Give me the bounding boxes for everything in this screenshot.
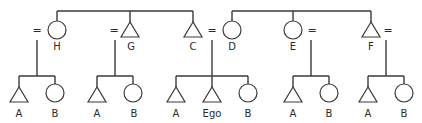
male-triangle-icon [121,22,139,37]
sibling-bar-right [232,11,371,22]
child-B: B [395,84,413,119]
female-circle-icon [320,84,338,102]
child-Ego: Ego [203,87,222,119]
person-C: C [184,22,202,52]
person-label: B [401,108,408,119]
person-label: A [365,108,372,119]
family-F-children: A B [359,40,413,119]
male-triangle-icon [362,22,380,37]
person-label: H [53,41,61,52]
person-G: G [121,22,139,52]
child-A: A [10,87,28,119]
child-A: A [284,87,302,119]
person-H: H [48,21,66,52]
kinship-diagram: H G C D E F = = = = = A B [0,0,422,123]
female-circle-icon [48,21,66,39]
person-E: E [284,21,302,52]
person-label: A [16,108,23,119]
child-A: A [167,87,185,119]
person-label: B [131,108,138,119]
male-triangle-icon [88,87,106,102]
ego-label: Ego [203,108,222,119]
male-triangle-icon [203,87,221,102]
female-circle-icon [46,84,64,102]
marriage-symbol-H: = [32,24,41,37]
male-triangle-icon [184,22,202,37]
person-label: B [245,108,252,119]
child-B: B [239,84,257,119]
marriage-symbol-G: = [109,24,118,37]
person-label: F [368,41,374,52]
person-F: F [362,22,380,52]
female-circle-icon [223,21,241,39]
person-label: B [326,108,333,119]
child-A: A [359,87,377,119]
female-circle-icon [395,84,413,102]
person-label: A [290,108,297,119]
person-label: A [94,108,101,119]
marriage-symbol-F: = [383,24,392,37]
person-label: D [228,41,236,52]
person-label: C [190,41,197,52]
marriage-symbol-E: = [307,24,316,37]
person-label: G [127,41,135,52]
child-B: B [46,84,64,119]
person-label: A [173,108,180,119]
female-circle-icon [124,84,142,102]
family-C-D-children: A Ego B [167,40,257,119]
child-B: B [320,84,338,119]
male-triangle-icon [10,87,28,102]
child-B: B [124,84,142,119]
female-circle-icon [284,21,302,39]
sibling-bar-left [57,11,193,22]
male-triangle-icon [167,87,185,102]
child-A: A [88,87,106,119]
marriage-symbol-C-D: = [207,24,216,37]
male-triangle-icon [359,87,377,102]
person-D: D [223,21,241,52]
person-label: E [290,41,296,52]
male-triangle-icon [284,87,302,102]
female-circle-icon [239,84,257,102]
person-label: B [52,108,59,119]
